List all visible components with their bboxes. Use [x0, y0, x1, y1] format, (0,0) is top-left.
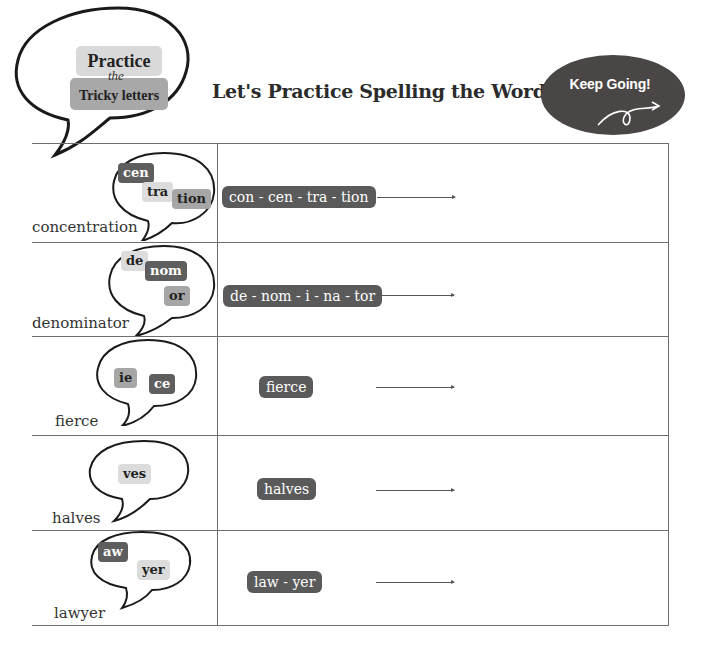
tricky-chip: tion	[172, 189, 211, 209]
arrow-icon	[376, 295, 454, 296]
word-label: lawyer	[54, 604, 105, 622]
arrow-icon	[376, 582, 454, 583]
word-label: fierce	[55, 412, 98, 430]
table-row: ie ce fierce fierce	[32, 336, 669, 435]
tricky-chip: cen	[118, 163, 154, 183]
table-row: de nom or denominator de - nom - i - na …	[32, 242, 669, 336]
tricky-chip: tra	[142, 182, 173, 202]
syllable-chip: de - nom - i - na - tor	[223, 285, 382, 307]
keep-going-label: Keep Going!	[560, 76, 660, 92]
word-label: denominator	[32, 314, 129, 332]
word-label: concentration	[32, 218, 138, 236]
tricky-chip: yer	[137, 560, 170, 580]
table-row: cen tra tion concentration con - cen - t…	[32, 143, 669, 242]
arrow-icon	[376, 387, 454, 388]
page-title: Let's Practice Spelling the Word	[212, 80, 546, 102]
table-row: aw yer lawyer law - yer	[32, 530, 669, 625]
arrow-icon	[377, 197, 455, 198]
table-row: ves halves halves	[32, 435, 669, 530]
tricky-chip: ie	[114, 368, 137, 388]
arrow-icon	[376, 490, 454, 491]
speech-bubble	[92, 338, 202, 426]
table-bottom-border	[32, 625, 669, 626]
syllable-chip: law - yer	[247, 571, 322, 593]
tricky-chip: nom	[145, 261, 187, 281]
keep-going-ellipse	[538, 52, 688, 138]
tricky-chip: aw	[98, 542, 128, 562]
tricky-chip: ves	[118, 464, 151, 484]
syllable-chip: halves	[257, 478, 316, 500]
tricky-chip: ce	[149, 374, 175, 394]
tricky-chip: or	[164, 286, 190, 306]
syllable-chip: fierce	[259, 376, 313, 398]
badge-connector-text: the	[108, 68, 124, 84]
word-label: halves	[52, 509, 100, 527]
syllable-chip: con - cen - tra - tion	[222, 186, 376, 208]
